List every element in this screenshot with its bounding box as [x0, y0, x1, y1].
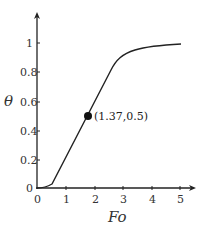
chart-canvas: 0 1 2 3 4 5 0 0.2 0.4 0.6 0.8 1 θ Fo (1.…	[0, 0, 204, 235]
y-tick-label: 0.4	[20, 125, 38, 138]
x-tick-label: 3	[120, 193, 127, 206]
y-tick-label: 0.6	[20, 96, 38, 109]
x-tick-label: 2	[92, 193, 99, 206]
x-tick-label: 1	[63, 193, 70, 206]
y-tick-label: 0.8	[20, 66, 38, 79]
x-axis-label: Fo	[107, 208, 127, 226]
y-axis-label: θ	[4, 92, 13, 110]
y-tick-label: 0	[26, 182, 33, 195]
axes	[36, 16, 192, 189]
point-annotation: (1.37,0.5)	[94, 110, 148, 123]
y-tick-label: 0.2	[20, 154, 38, 167]
y-tick-label: 1	[26, 37, 33, 50]
x-tick-label: 0	[34, 193, 41, 206]
data-point-marker	[84, 112, 92, 120]
x-tick-label: 5	[177, 193, 184, 206]
x-tick-label: 4	[149, 193, 156, 206]
